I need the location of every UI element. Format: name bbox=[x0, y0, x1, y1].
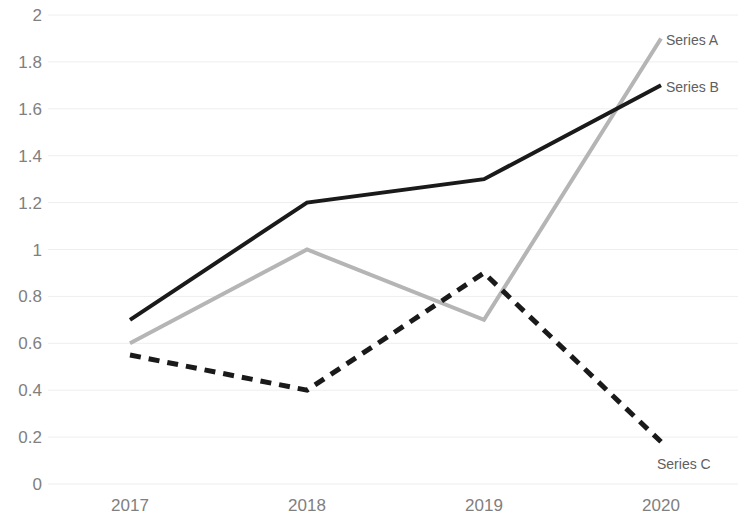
chart-plot-area bbox=[0, 0, 738, 514]
x-axis-tick-label: 2018 bbox=[288, 497, 326, 514]
line-chart: 21.81.61.41.210.80.60.40.20 201720182019… bbox=[0, 0, 738, 514]
series-label: Series A bbox=[666, 33, 718, 47]
x-axis-tick-label: 2020 bbox=[642, 497, 680, 514]
y-axis-tick-label: 1.2 bbox=[18, 194, 42, 211]
y-axis-tick-label: 0.8 bbox=[18, 288, 42, 305]
y-axis-tick-label: 1 bbox=[33, 241, 42, 258]
x-axis-tick-label: 2019 bbox=[465, 497, 503, 514]
series-line bbox=[130, 273, 661, 442]
y-axis-tick-label: 2 bbox=[33, 7, 42, 24]
series-lines bbox=[130, 38, 661, 441]
y-axis-tick-label: 0.2 bbox=[18, 429, 42, 446]
y-axis-tick-label: 1.6 bbox=[18, 100, 42, 117]
y-axis-tick-label: 1.4 bbox=[18, 147, 42, 164]
y-axis-tick-label: 0.4 bbox=[18, 382, 42, 399]
y-axis-tick-label: 0.6 bbox=[18, 335, 42, 352]
y-axis-tick-label: 1.8 bbox=[18, 53, 42, 70]
series-label: Series B bbox=[666, 80, 719, 94]
y-axis-tick-label: 0 bbox=[33, 476, 42, 493]
x-axis-tick-label: 2017 bbox=[111, 497, 149, 514]
series-label: Series C bbox=[657, 457, 711, 471]
